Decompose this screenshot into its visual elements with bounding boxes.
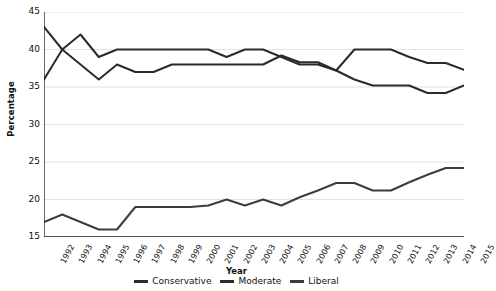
legend-label: Moderate [238,277,281,286]
legend-item-moderate[interactable]: Moderate [220,277,281,286]
x-tick-label: 1993 [77,243,95,265]
x-tick-label: 1997 [150,243,168,265]
x-tick-label: 2006 [314,243,332,265]
x-tick-label: 1995 [114,243,132,265]
x-tick-label: 2000 [205,243,223,265]
x-tick-label: 2007 [333,243,351,265]
x-tick-label: 2002 [241,243,259,265]
x-tick-label: 1998 [168,243,186,265]
legend-label: Liberal [308,277,338,286]
legend-item-liberal[interactable]: Liberal [290,277,338,286]
x-tick-label: 2015 [479,243,496,265]
x-tick-label: 2010 [387,243,405,265]
x-tick-label: 2005 [296,243,314,265]
chart-legend: ConservativeModerateLiberal [0,277,473,286]
x-tick-label: 2012 [424,243,442,265]
x-tick-label: 1994 [95,243,113,265]
x-tick-label: 1992 [59,243,77,265]
x-tick-label: 2011 [406,243,424,265]
legend-label: Conservative [152,277,211,286]
x-axis-title: Year [0,266,473,276]
x-tick-label: 2013 [442,243,460,265]
x-tick-label: 2008 [351,243,369,265]
x-tick-label: 1996 [132,243,150,265]
legend-swatch-icon [290,280,304,283]
x-tick-label: 2003 [260,243,278,265]
x-tick-label: 2009 [369,243,387,265]
legend-item-conservative[interactable]: Conservative [134,277,211,286]
x-tick-label: 2014 [461,243,479,265]
x-tick-label: 1999 [187,243,205,265]
legend-swatch-icon [220,280,234,283]
legend-swatch-icon [134,280,148,283]
x-tick-label: 2004 [278,243,296,265]
x-tick-label: 2001 [223,243,241,265]
